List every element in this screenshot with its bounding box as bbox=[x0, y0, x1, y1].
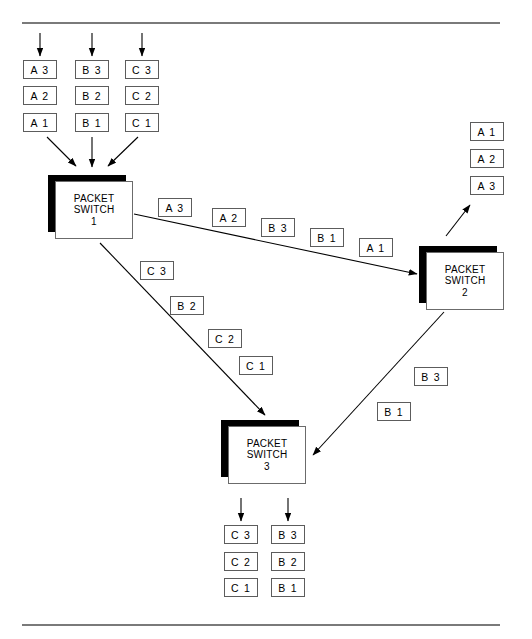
switch-3-line3: 3 bbox=[264, 461, 270, 473]
switch2-to-output-queue bbox=[446, 205, 470, 236]
input-queue-a-cell-2: A 2 bbox=[23, 86, 57, 105]
input-queue-a-cell-3: A 3 bbox=[23, 60, 57, 79]
packet-switch-1: PACKET SWITCH 1 bbox=[48, 175, 134, 240]
switch-3-label: PACKET SWITCH 3 bbox=[228, 426, 306, 484]
transit-s1-s2-packet-5: A 1 bbox=[359, 238, 393, 257]
transit-s2-s3-packet-1: B 3 bbox=[414, 367, 448, 386]
packet-switch-diagram: A 3 A 2 A 1 B 3 B 2 B 1 C 3 C 2 C 1 PACK… bbox=[0, 0, 532, 639]
transit-s1-s3-packet-2: B 2 bbox=[170, 296, 204, 315]
switch-2-line2: SWITCH bbox=[445, 275, 486, 287]
output-queue-s3-c-cell-1: C 1 bbox=[224, 578, 258, 597]
switch-2-line1: PACKET bbox=[445, 264, 485, 276]
switch-1-line1: PACKET bbox=[74, 193, 114, 205]
switch-3-line2: SWITCH bbox=[247, 449, 288, 461]
queue-a-to-switch1 bbox=[47, 137, 76, 166]
transit-s1-s2-packet-1: A 3 bbox=[158, 198, 192, 217]
output-queue-s3-c-cell-2: C 2 bbox=[224, 552, 258, 571]
transit-s1-s2-packet-4: B 1 bbox=[310, 228, 344, 247]
packet-switch-3: PACKET SWITCH 3 bbox=[221, 420, 307, 485]
input-queue-b-cell-3: B 3 bbox=[75, 60, 109, 79]
input-queue-c-cell-3: C 3 bbox=[125, 60, 159, 79]
transit-s1-s2-packet-3: B 3 bbox=[261, 218, 295, 237]
output-queue-s3-b-cell-1: B 1 bbox=[271, 578, 305, 597]
input-queue-a-cell-1: A 1 bbox=[23, 113, 57, 132]
input-queue-c-cell-2: C 2 bbox=[125, 86, 159, 105]
output-queue-s2-cell-2: A 2 bbox=[470, 149, 504, 168]
output-queue-s3-c-cell-3: C 3 bbox=[224, 525, 258, 544]
packet-switch-2: PACKET SWITCH 2 bbox=[419, 246, 505, 311]
transit-s1-s2-packet-2: A 2 bbox=[212, 208, 246, 227]
input-queue-b-cell-2: B 2 bbox=[75, 86, 109, 105]
switch-1-line3: 1 bbox=[91, 216, 97, 228]
queue-c-to-switch1 bbox=[108, 137, 138, 166]
output-queue-s2-cell-1: A 1 bbox=[470, 122, 504, 141]
output-queue-s3-b-cell-2: B 2 bbox=[271, 552, 305, 571]
switch-1-line2: SWITCH bbox=[74, 204, 115, 216]
input-queue-c-cell-1: C 1 bbox=[125, 113, 159, 132]
transit-s2-s3-packet-2: B 1 bbox=[377, 402, 411, 421]
switch-2-line3: 2 bbox=[462, 287, 468, 299]
input-queue-b-cell-1: B 1 bbox=[75, 113, 109, 132]
transit-s1-s3-packet-3: C 2 bbox=[208, 329, 242, 348]
output-queue-s3-b-cell-3: B 3 bbox=[271, 525, 305, 544]
transit-s1-s3-packet-4: C 1 bbox=[239, 356, 273, 375]
switch-2-label: PACKET SWITCH 2 bbox=[426, 252, 504, 310]
switch-3-line1: PACKET bbox=[247, 438, 287, 450]
output-queue-s2-cell-3: A 3 bbox=[470, 176, 504, 195]
switch-1-label: PACKET SWITCH 1 bbox=[55, 181, 133, 239]
transit-s1-s3-packet-1: C 3 bbox=[140, 261, 174, 280]
